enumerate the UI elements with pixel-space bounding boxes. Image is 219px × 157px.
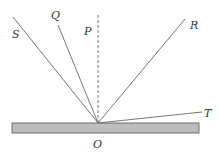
ray-Q	[58, 25, 98, 123]
ray-R	[98, 19, 185, 123]
label-S: S	[12, 28, 20, 41]
ray-T	[98, 112, 202, 123]
label-T: T	[204, 107, 213, 120]
label-O: O	[93, 138, 102, 151]
label-R: R	[189, 19, 198, 32]
label-P: P	[83, 25, 92, 38]
ray-diagram: S Q P R T O	[0, 0, 219, 157]
reflecting-surface	[12, 123, 199, 133]
label-Q: Q	[51, 9, 60, 22]
